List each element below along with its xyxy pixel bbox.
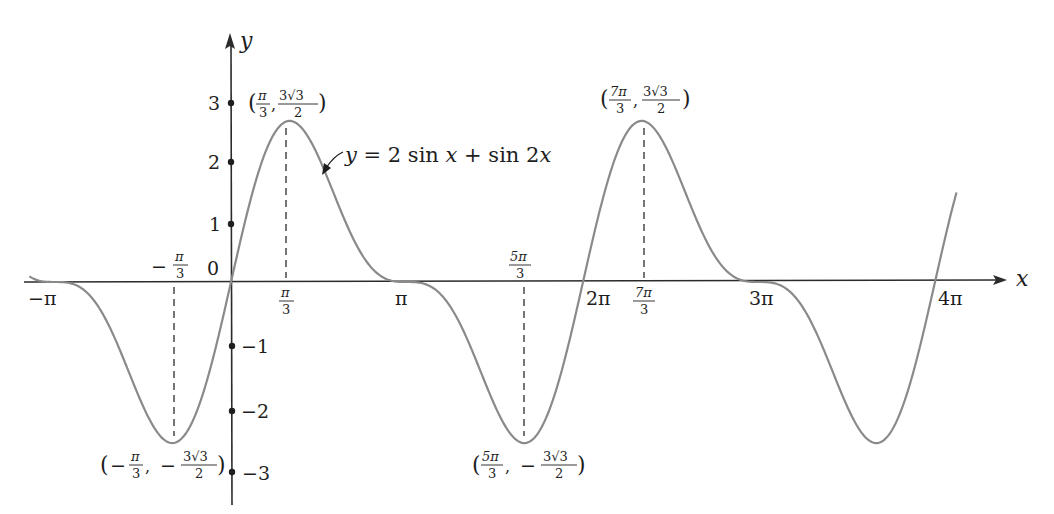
rparen: ) xyxy=(318,90,327,115)
function-plot: y x 0 3 2 1 −1 −2 −3 −π π 2π 3π 4π π 3 7… xyxy=(0,0,1054,514)
frac-num: 3√3 xyxy=(643,84,668,99)
rparen: ) xyxy=(577,452,586,477)
comma: , xyxy=(145,457,150,476)
annotation-leader xyxy=(326,152,343,168)
x-tick-label-5pi-over-3: 5π 3 xyxy=(509,249,531,281)
frac-num: 3√3 xyxy=(279,88,304,103)
x-axis-label: x xyxy=(1016,266,1029,291)
rparen: ) xyxy=(217,452,226,477)
point-label-max-7pi-over-3: ( 7π 3 , 3√3 2 ) xyxy=(600,84,691,116)
y-tick-label-3: 3 xyxy=(208,92,220,114)
y-tick-dot-m2 xyxy=(229,408,235,414)
frac-den: 2 xyxy=(294,105,302,120)
comma: , xyxy=(271,95,276,114)
frac-den: 3 xyxy=(132,466,140,481)
rparen: ) xyxy=(682,86,691,111)
frac-num: π xyxy=(130,449,140,464)
comma: , xyxy=(505,457,510,476)
y-tick-dot-3 xyxy=(228,100,234,106)
frac-den: 3 xyxy=(640,302,648,317)
frac-num: 3√3 xyxy=(183,449,208,464)
x-tick-label-3pi: 3π xyxy=(749,287,774,309)
y-tick-label-m1: −1 xyxy=(241,335,269,357)
minus: − xyxy=(160,454,176,476)
y-tick-label-m2: −2 xyxy=(241,400,269,422)
frac-num: 5π xyxy=(482,449,499,464)
origin-label: 0 xyxy=(207,257,219,279)
equation-annotation: y = 2 sin x + sin 2x xyxy=(322,143,551,175)
frac-den: 2 xyxy=(555,466,563,481)
x-tick-label-pi: π xyxy=(395,287,408,309)
frac-num: π xyxy=(174,249,184,264)
lparen: ( xyxy=(472,452,481,477)
point-label-max-pi-over-3: ( π 3 , 3√3 2 ) xyxy=(248,88,327,120)
y-tick-label-1: 1 xyxy=(209,213,221,235)
y-tick-label-m3: −3 xyxy=(242,462,270,484)
point-label-min-5pi-over-3: ( 5π 3 , − 3√3 2 ) xyxy=(472,449,586,481)
frac-den: 3 xyxy=(282,302,290,317)
frac-den: 3 xyxy=(176,266,184,281)
y-tick-dot-1 xyxy=(228,221,234,227)
frac-den: 3 xyxy=(516,266,524,281)
minus: − xyxy=(110,454,126,476)
y-axis-label: y xyxy=(239,28,253,53)
eq-x1: x xyxy=(446,143,458,167)
frac-num: 5π xyxy=(510,249,527,264)
frac-num: 7π xyxy=(635,285,652,300)
point-label-min-neg-pi-over-3: ( − π 3 , − 3√3 2 ) xyxy=(100,449,226,481)
x-tick-label-neg-pi-over-3: − π 3 xyxy=(151,249,188,281)
frac-num: 3√3 xyxy=(543,449,568,464)
x-tick-label-neg-pi: −π xyxy=(28,287,56,309)
frac-num: π xyxy=(257,88,267,103)
eq-x2: x xyxy=(539,143,551,167)
lparen: ( xyxy=(600,86,609,111)
x-tick-label-2pi: 2π xyxy=(586,287,611,309)
x-axis xyxy=(24,280,998,282)
frac-num: 7π xyxy=(610,84,627,99)
x-tick-label-7pi-over-3: 7π 3 xyxy=(633,285,655,317)
frac-den: 3 xyxy=(488,466,496,481)
y-tick-labels: 3 2 1 −1 −2 −3 xyxy=(208,92,270,484)
comma: , xyxy=(633,91,638,110)
lparen: ( xyxy=(248,90,257,115)
equation-label: y = 2 sin x + sin 2x xyxy=(344,143,551,167)
frac-minus: − xyxy=(151,255,167,277)
frac-num: π xyxy=(280,285,290,300)
frac-den: 2 xyxy=(195,466,203,481)
frac-den: 3 xyxy=(616,101,624,116)
lparen: ( xyxy=(100,452,109,477)
y-tick-dot-m1 xyxy=(229,343,235,349)
frac-den: 2 xyxy=(657,101,665,116)
eq-plus: + sin 2 xyxy=(457,143,539,167)
y-tick-label-2: 2 xyxy=(208,151,220,173)
x-tick-labels: −π π 2π 3π 4π π 3 7π 3 − π 3 5π 3 xyxy=(28,249,963,317)
frac-den: 3 xyxy=(259,105,267,120)
x-tick-label-pi-over-3: π 3 xyxy=(279,285,294,317)
y-tick-dot-m3 xyxy=(229,469,235,475)
x-tick-label-4pi: 4π xyxy=(938,287,963,309)
y-tick-dot-2 xyxy=(228,159,234,165)
eq-mid: = 2 sin xyxy=(357,143,446,167)
y-axis-arrow-icon xyxy=(225,33,235,49)
minus: − xyxy=(520,454,536,476)
